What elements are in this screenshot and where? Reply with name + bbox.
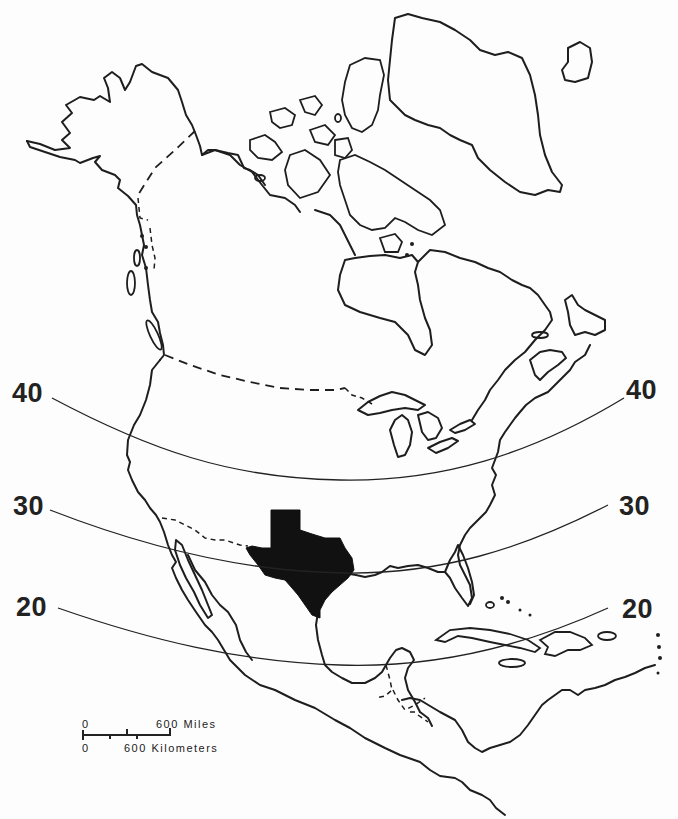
parallel-20-left-label: 20 [16, 594, 47, 621]
ellesmere-island [342, 58, 384, 132]
lesser-antilles [658, 656, 662, 660]
greenland [388, 14, 562, 195]
lake-huron [418, 412, 442, 440]
alaska-outline [27, 64, 265, 185]
baffin-island [338, 155, 445, 235]
haida-gwaii [127, 271, 135, 295]
arctic-islet [410, 242, 414, 246]
hudson-bay [338, 255, 432, 355]
bc-islet [140, 234, 144, 238]
parallel-30-right-label: 30 [619, 493, 650, 520]
alaska-south-coast [27, 141, 164, 360]
arctic-island-5 [285, 150, 330, 198]
bahamas-islet [506, 600, 510, 604]
scale-tick [82, 730, 84, 740]
lesser-antilles [657, 672, 660, 675]
scale-km-label: 600 Kilometers [124, 742, 218, 754]
bahamas-island [486, 602, 494, 608]
scale-miles-label: 600 Miles [156, 718, 217, 730]
nova-scotia [530, 350, 566, 380]
hispaniola [540, 632, 592, 656]
arctic-island-4 [310, 125, 335, 145]
lake-ontario [450, 420, 475, 433]
scale-tick [109, 734, 111, 739]
bahamas-islet [519, 609, 522, 612]
alaska-canada-border [138, 131, 195, 195]
jamaica [499, 659, 525, 667]
us-canada-border [165, 355, 345, 390]
puerto-rico [598, 632, 616, 640]
lake-michigan [390, 415, 412, 457]
newfoundland [565, 295, 605, 335]
scale-miles-zero: 0 [82, 718, 90, 730]
scale-km-zero: 0 [82, 742, 90, 754]
central-america-borders [376, 665, 428, 722]
lesser-antilles [656, 633, 660, 637]
east-coast-outline [438, 345, 590, 606]
lake-superior [358, 392, 425, 415]
iceland [562, 42, 592, 82]
scale-tick [136, 734, 138, 739]
arctic-island-1 [250, 135, 282, 160]
parallel-20-right-label: 20 [622, 596, 653, 623]
lake-erie [428, 438, 458, 453]
lesser-antilles [657, 645, 661, 649]
scale-tick [126, 729, 128, 735]
texas-highlight [246, 510, 354, 618]
parallel-30-left-label: 30 [13, 493, 44, 520]
southampton-island [380, 234, 402, 252]
parallel-20 [58, 608, 608, 665]
arctic-island-2 [270, 108, 295, 128]
central-america-coast-east [402, 665, 655, 752]
arctic-islet [335, 114, 341, 122]
bc-islet [144, 245, 148, 249]
parallel-40-right-label: 40 [626, 377, 657, 404]
parallel-40-left-label: 40 [12, 380, 43, 407]
canada-arctic-coast [202, 150, 355, 255]
scale-bar: 0 600 Miles 0 600 Kilometers [78, 712, 268, 762]
bc-island [134, 250, 140, 266]
bahamas-islet [500, 596, 504, 600]
bc-islet [144, 266, 148, 270]
bahamas-islet [529, 614, 532, 617]
parallel-40 [52, 398, 624, 480]
arctic-island-6 [335, 138, 352, 158]
scale-tick [169, 728, 171, 736]
arctic-islet [405, 253, 409, 257]
arctic-island-3 [300, 96, 322, 115]
north-america-map [0, 0, 678, 819]
